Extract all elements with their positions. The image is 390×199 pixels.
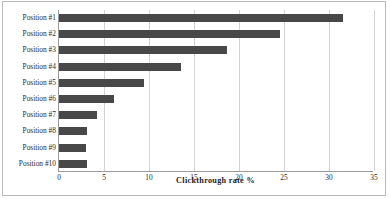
bar [59,160,87,168]
bar-row: Position #7 [59,107,373,123]
bar [59,14,343,22]
bar [59,95,114,103]
category-label: Position #2 [23,27,56,41]
category-label: Position #7 [23,108,56,122]
category-label: Position #10 [19,157,56,171]
bar-row: Position #3 [59,42,373,58]
chart-frame: Position #1Position #2Position #3Positio… [2,1,386,196]
category-label: Position #6 [23,92,56,106]
x-axis-title: Clickthrough rate % [58,176,373,185]
bar [59,111,97,119]
bar-row: Position #10 [59,156,373,172]
category-label: Position #8 [23,124,56,138]
bar-row: Position #8 [59,123,373,139]
bar [59,127,87,135]
gridline [374,10,375,171]
bar [59,46,227,54]
category-label: Position #5 [23,76,56,90]
category-label: Position #1 [23,11,56,25]
bar-row: Position #6 [59,91,373,107]
category-label: Position #4 [23,60,56,74]
bar [59,63,181,71]
bar-row: Position #1 [59,10,373,26]
plot-area: Position #1Position #2Position #3Positio… [58,10,373,172]
category-label: Position #9 [23,141,56,155]
bar [59,30,280,38]
bar-row: Position #5 [59,75,373,91]
bar-row: Position #2 [59,26,373,42]
bar-row: Position #9 [59,140,373,156]
bar [59,144,86,152]
bar [59,79,144,87]
category-label: Position #3 [23,43,56,57]
bar-row: Position #4 [59,59,373,75]
